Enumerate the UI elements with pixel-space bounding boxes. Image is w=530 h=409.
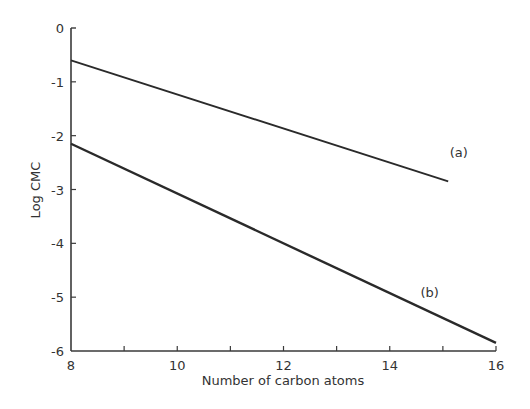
y-tick-label: -5 bbox=[51, 290, 64, 305]
series-label-b: (b) bbox=[420, 285, 438, 300]
x-tick-label: 14 bbox=[381, 358, 398, 373]
series-lines bbox=[71, 60, 496, 343]
chart: 0-1-2-3-4-5-6810121416 (a)(b) Number of … bbox=[0, 0, 530, 409]
x-axis-title: Number of carbon atoms bbox=[202, 373, 365, 388]
series-line-b bbox=[71, 144, 496, 343]
x-tick-label: 16 bbox=[488, 358, 505, 373]
y-tick-label: -3 bbox=[51, 183, 64, 198]
y-tick-label: -6 bbox=[51, 344, 64, 359]
x-tick-label: 10 bbox=[169, 358, 186, 373]
y-tick-label: 0 bbox=[56, 21, 64, 36]
series-label-a: (a) bbox=[450, 145, 468, 160]
x-tick-label: 8 bbox=[67, 358, 75, 373]
y-tick-label: -1 bbox=[51, 75, 64, 90]
x-tick-label: 12 bbox=[275, 358, 292, 373]
y-tick-label: -4 bbox=[51, 236, 64, 251]
series-labels: (a)(b) bbox=[420, 145, 467, 300]
axes: 0-1-2-3-4-5-6810121416 bbox=[51, 21, 504, 373]
y-axis-title: Log CMC bbox=[28, 162, 43, 219]
y-tick-label: -2 bbox=[51, 129, 64, 144]
series-line-a bbox=[71, 60, 448, 181]
